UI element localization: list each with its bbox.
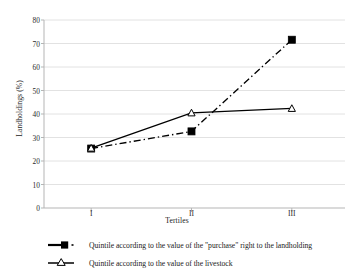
line-chart-figure: 01020304050607080 IIIIII Landholdings (%… bbox=[0, 0, 354, 279]
y-tick-label: 80 bbox=[20, 16, 40, 25]
x-axis-title: Tertiles bbox=[0, 216, 354, 225]
data-point-marker bbox=[188, 128, 195, 135]
y-axis-title: Landholdings (%) bbox=[15, 54, 24, 164]
legend-label: Quintile according to the value of the "… bbox=[89, 241, 312, 250]
legend-label: Quintile according to the value of the l… bbox=[89, 259, 233, 268]
y-tick-label: 0 bbox=[20, 204, 40, 213]
legend-item-livestock: Quintile according to the value of the l… bbox=[47, 254, 347, 272]
chart-legend: Quintile according to the value of the "… bbox=[47, 236, 347, 272]
data-series-layer bbox=[88, 36, 296, 152]
plot-area bbox=[0, 0, 354, 225]
legend-marker-open-triangle-solid bbox=[47, 256, 85, 270]
data-point-marker bbox=[288, 36, 295, 43]
legend-item-purchase-right: Quintile according to the value of the "… bbox=[47, 236, 347, 254]
y-tick-label: 70 bbox=[20, 39, 40, 48]
legend-marker-filled-square-dashdot bbox=[47, 238, 85, 252]
y-tick-label: 10 bbox=[20, 180, 40, 189]
gridlines bbox=[44, 20, 345, 185]
